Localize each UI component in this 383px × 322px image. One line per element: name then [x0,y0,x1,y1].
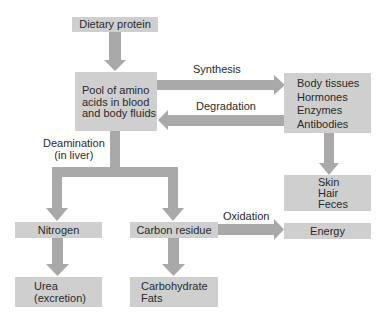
arrow-oxidation [218,219,284,240]
node-body-tissues-line-4: Antibodies [297,118,371,132]
node-amino-acid-pool: Pool of amino acids in blood and body fl… [75,72,157,131]
node-carbon-residue: Carbon residue [130,222,218,238]
node-carbohydrate-fats: Carbohydrate Fats [130,277,218,307]
node-skin-hair-feces: Skin Hair Feces [284,175,371,211]
node-feces-line: Feces [318,199,371,210]
node-body-tissues-line-1: Body tissues [297,77,371,91]
node-urea-line-2: (excretion) [34,293,102,305]
arrows-layer [0,0,383,322]
node-carbohydrate-line: Carbohydrate [141,281,218,293]
arrow-nitrogen-to-urea [46,237,69,276]
node-urea: Urea (excretion) [15,277,102,307]
node-energy: Energy [284,223,371,239]
arrow-tissues-to-skin [319,133,339,175]
edge-label-oxidation: Oxidation [223,210,269,222]
node-amino-acid-pool-line-1: Pool of amino [82,85,157,97]
node-body-tissues-line-2: Hormones [297,91,371,105]
node-dietary-protein-label: Dietary protein [79,18,151,31]
edge-label-deamination: Deamination (in liver) [43,138,105,161]
edge-label-degradation: Degradation [196,100,256,112]
node-carbon-residue-label: Carbon residue [136,224,211,237]
node-body-tissues: Body tissues Hormones Enzymes Antibodies [284,73,371,133]
node-dietary-protein: Dietary protein [72,17,158,32]
node-energy-label: Energy [310,225,345,238]
node-nitrogen-label: Nitrogen [38,224,80,237]
arrow-synthesis [157,75,285,95]
edge-label-deamination-line-2: (in liver) [43,150,105,162]
edge-label-synthesis: Synthesis [193,63,241,75]
node-body-tissues-line-3: Enzymes [297,104,371,118]
node-fats-line: Fats [141,293,218,305]
arrow-carbon-to-carbohydrate [162,238,185,276]
arrow-degradation [158,110,284,130]
node-urea-line-1: Urea [34,281,102,293]
node-nitrogen: Nitrogen [15,222,102,238]
edge-label-deamination-line-1: Deamination [43,138,105,150]
node-amino-acid-pool-line-3: and body fluids [82,108,157,120]
arrow-dietary-to-pool [104,32,126,71]
